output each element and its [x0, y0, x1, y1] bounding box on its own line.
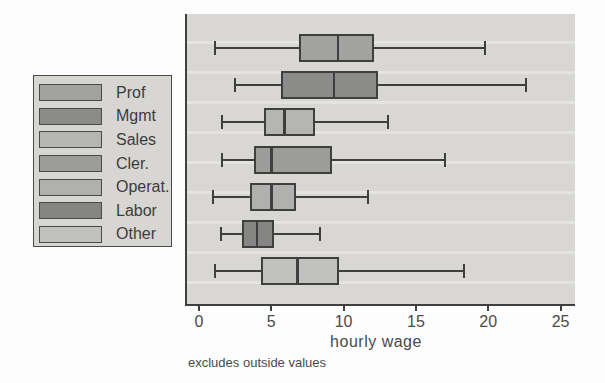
- x-tick-label-10: 10: [324, 313, 364, 331]
- median-line-labor: [256, 220, 259, 248]
- y-axis-line: [185, 14, 187, 306]
- lower-cap-other: [214, 264, 216, 278]
- lower-cap-sales: [221, 115, 223, 129]
- upper-cap-operat: [367, 190, 369, 204]
- lower-cap-operat: [212, 190, 214, 204]
- lower-cap-cler: [221, 153, 223, 167]
- legend-swatch-cler: [39, 155, 102, 172]
- upper-whisker-labor: [274, 233, 320, 235]
- box-cler: [254, 146, 332, 174]
- x-tick-mark-25: [560, 305, 562, 311]
- upper-cap-mgmt: [525, 78, 527, 92]
- legend-label-prof: Prof: [116, 84, 145, 102]
- upper-whisker-other: [339, 270, 463, 272]
- legend-label-mgmt: Mgmt: [116, 107, 156, 125]
- upper-whisker-cler: [332, 159, 445, 161]
- legend-item-sales: Sales: [39, 128, 171, 152]
- x-tick-mark-5: [270, 305, 272, 311]
- box-mgmt: [281, 71, 378, 99]
- upper-cap-labor: [319, 227, 321, 241]
- lower-whisker-sales: [222, 121, 264, 123]
- lower-whisker-prof: [215, 47, 299, 49]
- legend-swatch-other: [39, 226, 102, 243]
- lower-whisker-operat: [213, 196, 249, 198]
- legend-label-labor: Labor: [116, 202, 157, 220]
- x-axis-label: hourly wage: [186, 333, 566, 351]
- legend-item-mgmt: Mgmt: [39, 105, 171, 129]
- upper-whisker-sales: [315, 121, 389, 123]
- lower-cap-labor: [220, 227, 222, 241]
- upper-cap-other: [463, 264, 465, 278]
- legend-swatch-mgmt: [39, 108, 102, 125]
- lower-whisker-mgmt: [235, 84, 281, 86]
- legend-item-other: Other: [39, 223, 171, 247]
- x-tick-mark-0: [198, 305, 200, 311]
- boxplot-figure: ProfMgmtSalesCler.Operat.LaborOther 0510…: [0, 0, 605, 383]
- legend-item-prof: Prof: [39, 81, 171, 105]
- median-line-prof: [337, 34, 340, 62]
- legend-swatch-labor: [39, 202, 102, 219]
- median-line-sales: [283, 108, 286, 136]
- box-sales: [264, 108, 315, 136]
- x-tick-mark-15: [415, 305, 417, 311]
- lower-whisker-labor: [221, 233, 243, 235]
- x-tick-mark-20: [487, 305, 489, 311]
- legend-label-sales: Sales: [116, 131, 156, 149]
- legend-item-cler: Cler.: [39, 152, 171, 176]
- x-tick-mark-10: [343, 305, 345, 311]
- legend: ProfMgmtSalesCler.Operat.LaborOther: [33, 75, 172, 247]
- upper-cap-prof: [484, 41, 486, 55]
- lower-whisker-cler: [222, 159, 254, 161]
- upper-cap-sales: [387, 115, 389, 129]
- lower-whisker-other: [215, 270, 261, 272]
- x-tick-label-5: 5: [251, 313, 291, 331]
- lower-cap-mgmt: [234, 78, 236, 92]
- chart-note: excludes outside values: [188, 355, 326, 370]
- upper-whisker-prof: [374, 47, 485, 49]
- median-line-cler: [270, 146, 273, 174]
- x-tick-label-25: 25: [541, 313, 581, 331]
- median-line-other: [296, 257, 299, 285]
- legend-swatch-sales: [39, 131, 102, 148]
- legend-item-labor: Labor: [39, 199, 171, 223]
- upper-whisker-operat: [296, 196, 368, 198]
- plot-area: [186, 14, 575, 305]
- legend-label-cler: Cler.: [116, 155, 149, 173]
- median-line-operat: [270, 183, 273, 211]
- legend-swatch-operat: [39, 179, 102, 196]
- x-tick-label-15: 15: [396, 313, 436, 331]
- upper-cap-cler: [444, 153, 446, 167]
- x-tick-label-0: 0: [179, 313, 219, 331]
- lower-cap-prof: [214, 41, 216, 55]
- box-other: [261, 257, 339, 285]
- median-line-mgmt: [333, 71, 336, 99]
- legend-label-other: Other: [116, 225, 156, 243]
- x-tick-label-20: 20: [468, 313, 508, 331]
- legend-item-operat: Operat.: [39, 175, 171, 199]
- legend-swatch-prof: [39, 84, 102, 101]
- upper-whisker-mgmt: [378, 84, 526, 86]
- legend-label-operat: Operat.: [116, 178, 169, 196]
